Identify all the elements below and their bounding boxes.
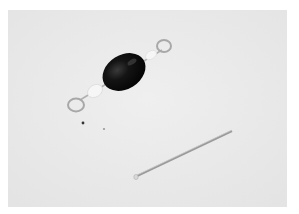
speck bbox=[103, 128, 105, 130]
pin-head bbox=[134, 174, 138, 179]
photo-scene bbox=[8, 10, 287, 207]
surface bbox=[8, 10, 287, 207]
speck bbox=[82, 122, 85, 125]
photo: Black oval bead on an eye pin with two w… bbox=[8, 10, 287, 207]
